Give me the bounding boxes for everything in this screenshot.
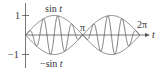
x-tick-label-2pi: 2π: [137, 19, 147, 30]
plot-area: 1 −1 sin t −sin t π 2π t: [0, 0, 161, 72]
sin-t-label: sin t: [45, 3, 62, 14]
y-tick-label-neg1: −1: [8, 49, 19, 60]
x-tick-label-pi: π: [80, 22, 85, 33]
neg-sin-t-label-func: −sin: [40, 58, 60, 69]
sin-t-label-var: t: [59, 3, 62, 14]
neg-sin-t-label-var: t: [60, 58, 63, 69]
x-axis-arrow-icon: [145, 33, 150, 37]
sin-t-label-func: sin: [45, 3, 59, 14]
x-axis-label-t: t: [152, 29, 155, 40]
sine-envelope-figure: 1 −1 sin t −sin t π 2π t: [0, 0, 161, 72]
y-tick-label-1: 1: [15, 10, 20, 21]
neg-sin-t-label: −sin t: [40, 58, 63, 69]
